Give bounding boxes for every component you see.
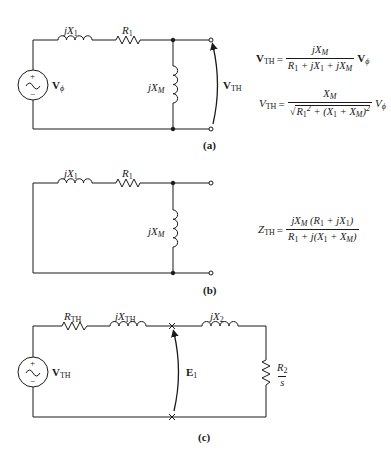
plus-sign: + (30, 358, 35, 368)
caption-a: (a) (203, 139, 216, 151)
caption-b: (b) (203, 284, 216, 296)
label-r1-b: R1 (122, 168, 133, 181)
label-vth-c: VTH (52, 367, 71, 380)
equation-vth-magnitude: VTH = XM √R12 + (X1 + XM)2 Vϕ (259, 88, 386, 119)
minus-sign: − (30, 376, 35, 386)
label-vth-a: VTH (223, 80, 242, 93)
label-r2-over-s: R2 s (275, 362, 289, 389)
vth-voltage-arrow (213, 46, 218, 124)
panel-b-circuit (33, 179, 213, 275)
terminal-top (209, 38, 213, 42)
plus-sign: + (30, 71, 35, 81)
equation-zth: ZTH = jXM (R1 + jX1) R1 + j(X1 + XM) (258, 215, 362, 244)
terminal-top (209, 181, 213, 185)
label-jxm-b: jXM (148, 226, 164, 239)
e1-voltage-arrow (174, 333, 179, 411)
label-r1-a: R1 (122, 25, 133, 38)
label-vphi: Vϕ (52, 80, 64, 93)
panel-a-circuit (18, 36, 218, 131)
minus-sign: − (30, 89, 35, 99)
label-jxm-a: jXM (148, 82, 164, 95)
caption-c: (c) (198, 431, 210, 443)
inductor-jxm-symbol (173, 210, 178, 247)
label-rth: RTH (64, 311, 81, 324)
label-e1: E1 (186, 367, 197, 380)
terminal-bottom (209, 271, 213, 275)
resistor-r2s-symbol (262, 360, 270, 385)
terminal-bottom (209, 127, 213, 131)
label-jxth: jXTH (115, 311, 135, 324)
label-jx2: jX2 (210, 311, 224, 324)
label-jx1-b: jX1 (64, 168, 78, 181)
label-jx1-a: jX1 (64, 25, 78, 38)
inductor-jxm-symbol (173, 66, 178, 103)
equation-vth-phasor: VTH = jXM R1 + jX1 + jXM Vϕ (256, 44, 369, 73)
